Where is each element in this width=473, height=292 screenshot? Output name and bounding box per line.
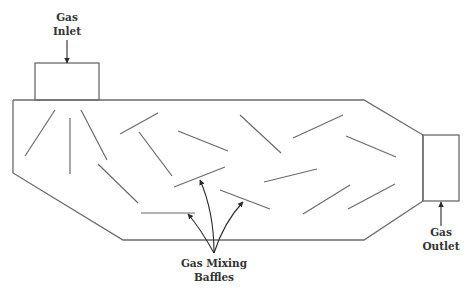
baffle-plate [348, 184, 395, 209]
baffle-plate [240, 115, 281, 153]
baffle-plate [98, 164, 138, 203]
baffle-pointer-arrows [188, 180, 243, 253]
gas-inlet-box [35, 63, 99, 100]
gas-inlet-label-line2: Inlet [53, 24, 81, 38]
pointer-arrow-icon [188, 214, 214, 253]
baffle-plate [174, 167, 225, 187]
gas-outlet-box [423, 135, 459, 201]
gas-mixing-baffles-label-line2: Baffles [181, 270, 247, 284]
gas-mixing-baffles-label-line1: Gas Mixing [181, 256, 247, 270]
baffle-plate [303, 185, 350, 214]
baffle-plate [120, 113, 158, 134]
baffle-plate [25, 110, 55, 156]
baffle-group [25, 110, 396, 214]
baffle-plate [346, 136, 396, 157]
baffle-plate [178, 131, 228, 151]
baffle-plate [139, 132, 172, 176]
gas-outlet-label-line1: Gas [422, 225, 459, 239]
gas-mixing-baffles-label: Gas Mixing Baffles [181, 256, 247, 284]
baffle-plate [293, 115, 343, 138]
gas-inlet-label: Gas Inlet [53, 10, 81, 38]
pointer-arrow-icon [200, 180, 214, 253]
gas-outlet-label: Gas Outlet [422, 225, 459, 253]
pointer-arrow-icon [214, 202, 243, 253]
gas-inlet-label-line1: Gas [53, 10, 81, 24]
baffle-plate [81, 110, 107, 160]
baffle-plate [220, 190, 270, 209]
baffle-plate [264, 169, 317, 182]
gas-outlet-label-line2: Outlet [422, 239, 459, 253]
gas-mixing-diagram [0, 0, 473, 292]
